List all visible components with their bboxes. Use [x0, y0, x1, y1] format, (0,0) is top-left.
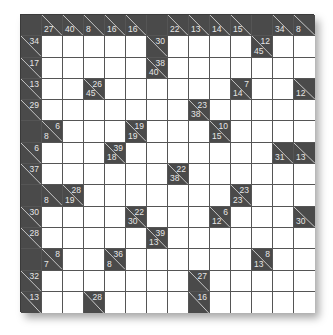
- entry-cell[interactable]: [168, 228, 189, 249]
- entry-cell[interactable]: [210, 292, 231, 313]
- entry-cell[interactable]: [252, 292, 273, 313]
- entry-cell[interactable]: [168, 292, 189, 313]
- entry-cell[interactable]: [189, 185, 210, 206]
- entry-cell[interactable]: [294, 164, 315, 185]
- entry-cell[interactable]: [63, 58, 84, 79]
- entry-cell[interactable]: [168, 121, 189, 142]
- entry-cell[interactable]: [273, 271, 294, 292]
- entry-cell[interactable]: [105, 271, 126, 292]
- entry-cell[interactable]: [294, 185, 315, 206]
- entry-cell[interactable]: [273, 58, 294, 79]
- entry-cell[interactable]: [63, 36, 84, 57]
- entry-cell[interactable]: [147, 292, 168, 313]
- entry-cell[interactable]: [252, 207, 273, 228]
- entry-cell[interactable]: [147, 143, 168, 164]
- entry-cell[interactable]: [105, 121, 126, 142]
- entry-cell[interactable]: [189, 228, 210, 249]
- entry-cell[interactable]: [126, 58, 147, 79]
- entry-cell[interactable]: [126, 143, 147, 164]
- entry-cell[interactable]: [231, 249, 252, 270]
- entry-cell[interactable]: [42, 36, 63, 57]
- entry-cell[interactable]: [105, 58, 126, 79]
- entry-cell[interactable]: [273, 185, 294, 206]
- entry-cell[interactable]: [273, 164, 294, 185]
- entry-cell[interactable]: [42, 100, 63, 121]
- entry-cell[interactable]: [126, 36, 147, 57]
- entry-cell[interactable]: [252, 79, 273, 100]
- entry-cell[interactable]: [147, 121, 168, 142]
- entry-cell[interactable]: [147, 185, 168, 206]
- entry-cell[interactable]: [189, 143, 210, 164]
- entry-cell[interactable]: [231, 143, 252, 164]
- entry-cell[interactable]: [126, 249, 147, 270]
- entry-cell[interactable]: [273, 207, 294, 228]
- entry-cell[interactable]: [231, 164, 252, 185]
- entry-cell[interactable]: [42, 228, 63, 249]
- entry-cell[interactable]: [105, 185, 126, 206]
- entry-cell[interactable]: [63, 271, 84, 292]
- entry-cell[interactable]: [168, 36, 189, 57]
- entry-cell[interactable]: [273, 79, 294, 100]
- entry-cell[interactable]: [231, 228, 252, 249]
- entry-cell[interactable]: [42, 207, 63, 228]
- entry-cell[interactable]: [252, 185, 273, 206]
- entry-cell[interactable]: [210, 36, 231, 57]
- entry-cell[interactable]: [105, 207, 126, 228]
- entry-cell[interactable]: [294, 249, 315, 270]
- entry-cell[interactable]: [273, 249, 294, 270]
- entry-cell[interactable]: [294, 121, 315, 142]
- entry-cell[interactable]: [294, 292, 315, 313]
- entry-cell[interactable]: [63, 249, 84, 270]
- entry-cell[interactable]: [42, 143, 63, 164]
- entry-cell[interactable]: [294, 100, 315, 121]
- entry-cell[interactable]: [231, 121, 252, 142]
- entry-cell[interactable]: [84, 100, 105, 121]
- entry-cell[interactable]: [210, 271, 231, 292]
- entry-cell[interactable]: [168, 249, 189, 270]
- entry-cell[interactable]: [147, 79, 168, 100]
- entry-cell[interactable]: [84, 249, 105, 270]
- entry-cell[interactable]: [63, 121, 84, 142]
- entry-cell[interactable]: [189, 121, 210, 142]
- entry-cell[interactable]: [126, 185, 147, 206]
- entry-cell[interactable]: [210, 143, 231, 164]
- entry-cell[interactable]: [84, 58, 105, 79]
- entry-cell[interactable]: [168, 58, 189, 79]
- entry-cell[interactable]: [63, 100, 84, 121]
- entry-cell[interactable]: [210, 58, 231, 79]
- entry-cell[interactable]: [105, 79, 126, 100]
- entry-cell[interactable]: [189, 79, 210, 100]
- entry-cell[interactable]: [84, 36, 105, 57]
- entry-cell[interactable]: [105, 228, 126, 249]
- entry-cell[interactable]: [168, 143, 189, 164]
- entry-cell[interactable]: [105, 164, 126, 185]
- entry-cell[interactable]: [252, 143, 273, 164]
- entry-cell[interactable]: [105, 100, 126, 121]
- entry-cell[interactable]: [252, 228, 273, 249]
- entry-cell[interactable]: [147, 100, 168, 121]
- entry-cell[interactable]: [294, 58, 315, 79]
- entry-cell[interactable]: [168, 100, 189, 121]
- entry-cell[interactable]: [63, 228, 84, 249]
- entry-cell[interactable]: [189, 249, 210, 270]
- entry-cell[interactable]: [42, 164, 63, 185]
- entry-cell[interactable]: [84, 207, 105, 228]
- entry-cell[interactable]: [42, 79, 63, 100]
- entry-cell[interactable]: [252, 271, 273, 292]
- entry-cell[interactable]: [84, 121, 105, 142]
- entry-cell[interactable]: [273, 292, 294, 313]
- entry-cell[interactable]: [147, 271, 168, 292]
- entry-cell[interactable]: [189, 207, 210, 228]
- entry-cell[interactable]: [42, 58, 63, 79]
- entry-cell[interactable]: [147, 249, 168, 270]
- entry-cell[interactable]: [189, 36, 210, 57]
- entry-cell[interactable]: [147, 164, 168, 185]
- entry-cell[interactable]: [168, 185, 189, 206]
- entry-cell[interactable]: [84, 271, 105, 292]
- entry-cell[interactable]: [273, 121, 294, 142]
- entry-cell[interactable]: [273, 228, 294, 249]
- entry-cell[interactable]: [63, 143, 84, 164]
- entry-cell[interactable]: [210, 164, 231, 185]
- entry-cell[interactable]: [252, 121, 273, 142]
- entry-cell[interactable]: [294, 228, 315, 249]
